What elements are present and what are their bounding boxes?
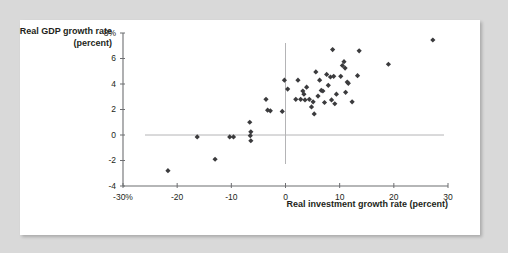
data-point <box>322 100 327 105</box>
y-tick-label: 2 <box>90 104 116 114</box>
data-point <box>430 37 435 42</box>
data-point <box>304 85 309 90</box>
x-tick-label: -20 <box>160 192 194 202</box>
y-tick-label: 6 <box>90 53 116 63</box>
x-tick-label: -10 <box>214 192 248 202</box>
reference-lines <box>145 43 444 164</box>
data-point <box>302 97 307 102</box>
x-tick-label: 0 <box>269 192 303 202</box>
data-point <box>386 62 391 67</box>
data-point <box>355 73 360 78</box>
data-point <box>357 48 362 53</box>
x-tick-label: 10 <box>323 192 357 202</box>
x-tick-label: -30% <box>106 192 140 202</box>
data-point <box>293 97 298 102</box>
data-point <box>330 47 335 52</box>
data-point <box>338 74 343 79</box>
data-point <box>248 138 253 143</box>
data-point <box>307 97 312 102</box>
data-point <box>298 97 303 102</box>
y-tick-label: -2 <box>90 155 116 165</box>
data-point <box>326 83 331 88</box>
figure-card: Real GDP growth rate (percent) Real inve… <box>20 20 480 235</box>
data-point <box>343 90 348 95</box>
data-point <box>329 97 334 102</box>
data-point <box>350 99 355 104</box>
data-point <box>263 97 268 102</box>
data-point <box>165 168 170 173</box>
data-point <box>282 78 287 83</box>
x-tick-label: 30 <box>431 192 465 202</box>
plot-canvas <box>20 20 480 235</box>
y-tick-label: 0 <box>90 130 116 140</box>
tick-marks <box>120 33 448 188</box>
data-point <box>295 78 300 83</box>
data-point <box>248 133 253 138</box>
data-point <box>280 109 285 114</box>
y-tick-label: -4 <box>90 181 116 191</box>
data-point <box>312 111 317 116</box>
x-tick-label: 20 <box>377 192 411 202</box>
y-tick-label: 8% <box>90 28 116 38</box>
data-point <box>334 92 339 97</box>
data-point <box>331 74 336 79</box>
data-point <box>309 104 314 109</box>
data-point <box>212 157 217 162</box>
data-point <box>311 99 316 104</box>
scatter-plot: Real GDP growth rate (percent) Real inve… <box>20 20 480 235</box>
data-point <box>324 72 329 77</box>
data-point <box>247 120 252 125</box>
data-point <box>317 78 322 83</box>
data-point-group <box>165 37 435 173</box>
data-point <box>315 94 320 99</box>
y-tick-label: 4 <box>90 79 116 89</box>
data-point <box>332 101 337 106</box>
data-point <box>313 69 318 74</box>
